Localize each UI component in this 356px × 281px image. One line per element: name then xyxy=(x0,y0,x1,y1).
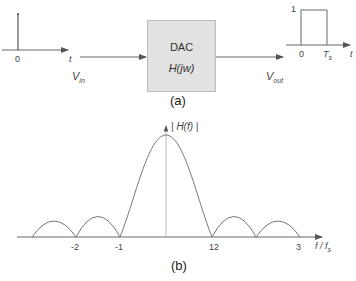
output-origin-label: 0 xyxy=(299,49,304,59)
caption-a: (a) xyxy=(170,93,186,108)
frequency-axis-label: f / fs xyxy=(315,241,331,253)
tick-3: 3 xyxy=(296,242,301,252)
sinc-magnitude-plot xyxy=(17,126,322,237)
caption-b: (b) xyxy=(171,258,187,273)
vout-label: Vout xyxy=(266,70,283,84)
tick-minus-2: -2 xyxy=(71,242,79,252)
pulse-height-label: 1 xyxy=(291,4,296,14)
dac-block: DAC H(jw) xyxy=(147,20,216,92)
magnitude-axis-label: | H(f) | xyxy=(171,121,198,132)
tick-12: 12 xyxy=(209,242,219,252)
pulse-width-label: Ts xyxy=(323,49,332,61)
tick-minus-1: -1 xyxy=(115,242,123,252)
dac-title: DAC xyxy=(148,41,215,53)
input-origin-label: 0 xyxy=(15,54,20,64)
dac-transfer-function: H(jw) xyxy=(148,62,215,74)
output-time-axis-label: t xyxy=(350,49,353,59)
vin-label: Vin xyxy=(72,70,85,84)
input-time-axis-label: t xyxy=(69,54,72,64)
output-pulse-plot xyxy=(286,10,350,45)
input-impulse-plot xyxy=(2,13,68,50)
